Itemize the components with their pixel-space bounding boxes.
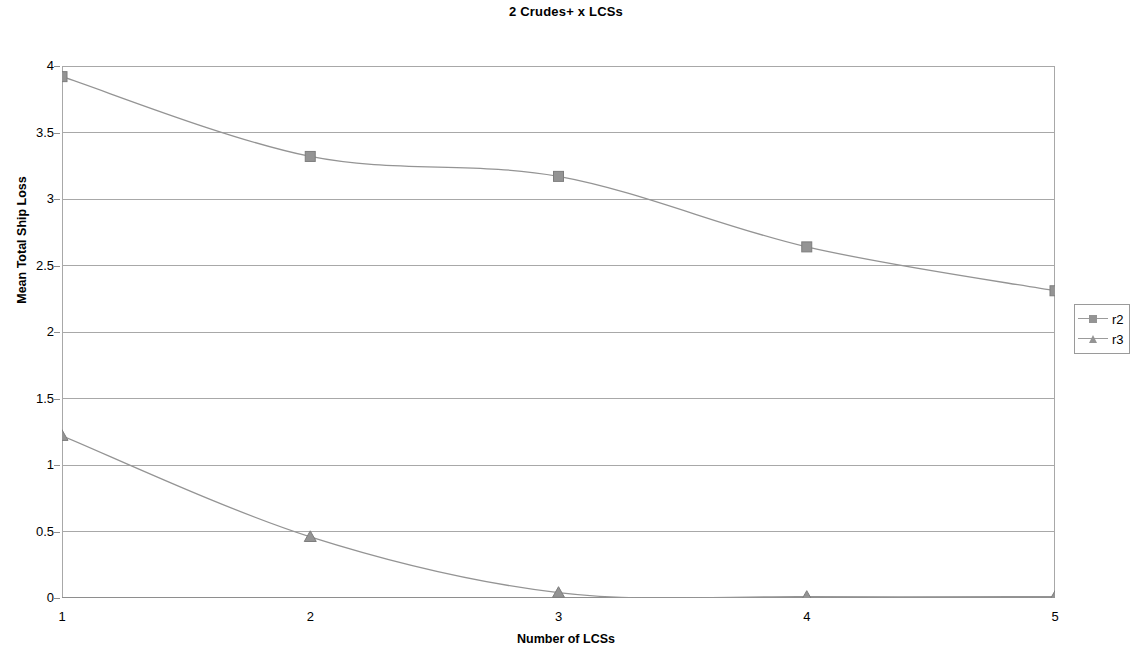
y-tick-mark — [54, 598, 60, 599]
legend-item-r3[interactable]: r3 — [1078, 329, 1124, 349]
y-tick-mark — [54, 465, 60, 466]
data-point-marker-r3 — [304, 531, 316, 542]
x-tick-label: 2 — [290, 610, 330, 623]
y-tick-mark — [54, 266, 60, 267]
y-tick-mark — [54, 532, 60, 533]
legend-label: r2 — [1108, 313, 1124, 326]
legend-item-r2[interactable]: r2 — [1078, 309, 1124, 329]
plot-area — [62, 66, 1055, 598]
y-axis-tick-labels: 00.511.522.533.54 — [0, 66, 54, 598]
y-tick-label: 2.5 — [8, 259, 54, 272]
y-tick-label: 2 — [8, 325, 54, 338]
y-tick-label: 4 — [8, 59, 54, 72]
data-point-marker-r2 — [554, 171, 564, 181]
chart-legend: r2r3 — [1074, 304, 1130, 354]
plot-canvas — [62, 66, 1055, 598]
y-tick-label: 1 — [8, 458, 54, 471]
y-tick-mark — [54, 133, 60, 134]
data-point-marker-r3 — [62, 430, 68, 441]
y-tick-mark — [54, 332, 60, 333]
y-tick-label: 1.5 — [8, 392, 54, 405]
series-line-r3 — [62, 436, 1055, 598]
x-axis-title: Number of LCSs — [0, 632, 1132, 646]
x-tick-label: 3 — [539, 610, 579, 623]
y-tick-label: 0.5 — [8, 525, 54, 538]
square-marker-icon — [1078, 312, 1108, 326]
chart-figure: 2 Crudes+ x LCSs Mean Total Ship Loss 00… — [0, 0, 1132, 657]
legend-label: r3 — [1108, 333, 1124, 346]
y-tick-label: 3.5 — [8, 126, 54, 139]
triangle-marker-icon — [1078, 332, 1108, 346]
x-tick-label: 5 — [1035, 610, 1075, 623]
x-tick-label: 1 — [42, 610, 82, 623]
y-tick-mark — [54, 199, 60, 200]
y-tick-mark — [54, 399, 60, 400]
data-point-marker-r2 — [305, 151, 315, 161]
series-line-r2 — [62, 77, 1055, 291]
data-point-marker-r2 — [1050, 286, 1055, 296]
data-point-marker-r2 — [62, 72, 67, 82]
x-tick-label: 4 — [787, 610, 827, 623]
chart-title: 2 Crudes+ x LCSs — [0, 4, 1132, 19]
y-tick-label: 0 — [8, 591, 54, 604]
y-tick-mark — [54, 66, 60, 67]
y-tick-label: 3 — [8, 192, 54, 205]
data-point-marker-r2 — [802, 242, 812, 252]
x-axis-tick-labels: 12345 — [62, 610, 1055, 630]
